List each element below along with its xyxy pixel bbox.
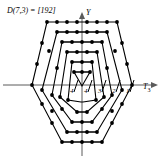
lattice-dot (72, 70, 76, 74)
lattice-dot (90, 40, 94, 44)
tick-label-1: 4 (84, 88, 88, 95)
lattice-dot (66, 98, 70, 102)
lattice-dot (75, 30, 79, 34)
lattice-dot (75, 20, 79, 24)
lattice-dot (80, 60, 84, 64)
lattice-dot (120, 88, 124, 92)
lattice-dot (50, 121, 54, 125)
weight-diagram-figure: D(7,3) = [192] Y T3 4 4 3 2 1 (0, 0, 164, 160)
lattice-dot (95, 20, 99, 24)
lattice-dot (95, 130, 99, 134)
lattice-dot (60, 140, 64, 144)
lattice-dot (75, 130, 79, 134)
lattice-dot (85, 130, 89, 134)
lattice-dot (94, 98, 98, 102)
lattice-dot (35, 62, 39, 66)
t3-axis-label: T3 (143, 83, 150, 93)
lattice-dot (30, 83, 34, 87)
lattice-dot (40, 102, 44, 106)
lattice-dot (80, 140, 84, 144)
lattice-dot (110, 121, 114, 125)
lattice-dot (88, 70, 92, 74)
lattice-dot (100, 140, 104, 144)
lattice-dot (60, 107, 64, 111)
lattice-dot (65, 30, 69, 34)
tick-label-4: 1 (126, 88, 130, 95)
lattice-dot (65, 20, 69, 24)
tick-label-3: 2 (112, 88, 116, 95)
lattice-dot (115, 20, 119, 24)
lattice-dot (80, 40, 84, 44)
t3-tick-marks (74, 80, 134, 92)
t3-axis-arrowhead (151, 82, 158, 88)
tick-mark (116, 80, 120, 92)
lattice-dot (70, 40, 74, 44)
lattice-dot (105, 66, 109, 70)
lattice-dot (95, 30, 99, 34)
tick-label-2: 3 (98, 88, 102, 95)
lattice-dot (40, 88, 44, 92)
y-axis-label: Y (86, 9, 90, 17)
lattice-dot (50, 93, 54, 97)
lattice-dot (102, 95, 106, 99)
lattice-dot (60, 40, 64, 44)
lattice-dot (80, 120, 84, 124)
lattice-dot (65, 50, 69, 54)
lattice-dot (70, 120, 74, 124)
lattice-dot (65, 130, 69, 134)
lattice-dot (90, 120, 94, 124)
lattice-dot (105, 20, 109, 24)
lattice-dot (55, 30, 59, 34)
lattice-dot (100, 107, 104, 111)
tick-mark (74, 80, 78, 92)
lattice-dot (120, 41, 124, 45)
lattice-dot (125, 62, 129, 66)
y-axis-arrowhead (79, 12, 85, 19)
lattice-dot (58, 95, 62, 99)
lattice-dot (85, 20, 89, 24)
figure-title: D(7,3) = [192] (7, 7, 56, 15)
tick-mark (88, 80, 92, 92)
lattice-dot (75, 50, 79, 54)
lattice-dot (70, 60, 74, 64)
lattice-dot (105, 30, 109, 34)
lattice-dot (55, 20, 59, 24)
lattice-dot (80, 70, 84, 74)
t3-axis-label-subscript: 3 (147, 87, 150, 93)
lattice-dot (120, 102, 124, 106)
lattice-dot (40, 41, 44, 45)
lattice-dot (85, 50, 89, 54)
lattice-dot (85, 30, 89, 34)
lattice-dot (95, 50, 99, 54)
lattice-dot (75, 110, 79, 114)
lattice-dot (55, 66, 59, 70)
lattice-dot (85, 110, 89, 114)
tick-label-0: 4 (70, 88, 74, 95)
lattice-dot (47, 49, 51, 53)
lattice-diagram-svg (0, 0, 164, 160)
lattice-dot (110, 109, 114, 113)
lattice-dot (70, 140, 74, 144)
lattice-dot (90, 60, 94, 64)
lattice-dot (113, 49, 117, 53)
lattice-dot (45, 20, 49, 24)
lattice-dot (50, 109, 54, 113)
lattice-dot (100, 40, 104, 44)
lattice-dot (90, 140, 94, 144)
